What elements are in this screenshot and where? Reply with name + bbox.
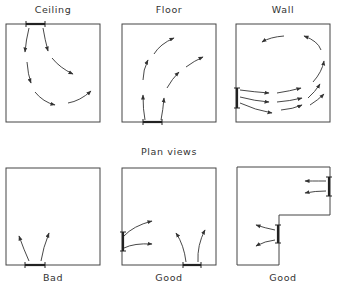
airflow-diagram (0, 0, 338, 293)
good-room-1 (122, 168, 216, 265)
room-outlines (6, 24, 330, 265)
floor-room (122, 24, 216, 122)
outlets (25, 24, 329, 265)
airflow-arrows (25, 28, 324, 120)
bad-room (6, 168, 100, 265)
good-room-2-lshape (237, 167, 330, 265)
ceiling-room (6, 24, 100, 122)
